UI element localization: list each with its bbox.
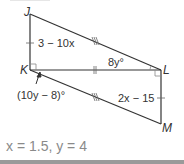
vertex-label-k: K xyxy=(20,63,29,77)
label-lm-length: 2x − 15 xyxy=(118,92,154,104)
vertex-label-j: J xyxy=(23,5,31,19)
label-jk-length: 3 − 10x xyxy=(38,37,75,49)
label-angle-lkm: (10y − 8)° xyxy=(17,89,65,101)
vertex-label-l: L xyxy=(163,63,170,77)
bottom-border xyxy=(0,160,184,164)
vertex-label-m: M xyxy=(162,121,172,135)
answer-text: x = 1.5, y = 4 xyxy=(6,138,87,154)
right-angle-mark-l xyxy=(155,70,161,76)
right-angle-mark-k xyxy=(30,64,36,70)
label-angle-jlk: 8y° xyxy=(108,56,124,68)
geometry-figure: J K L M 3 − 10x 8y° (10y − 8)° 2x − 15 xyxy=(0,0,184,140)
